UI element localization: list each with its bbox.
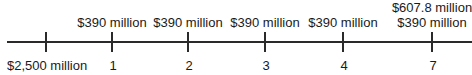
- tick-3: [264, 32, 266, 52]
- cashflow-label-3: $390 million: [230, 15, 299, 30]
- timeline-axis: [7, 41, 472, 43]
- cashflow-label-4: $390 million: [308, 15, 377, 30]
- cashflow-label-2: $390 million: [153, 15, 222, 30]
- tick-4: [342, 32, 344, 52]
- period-label-1: 1: [109, 58, 116, 73]
- period-label-7: 7: [429, 58, 436, 73]
- tick-7: [431, 32, 433, 52]
- initial-investment-label: $2,500 million: [7, 58, 87, 73]
- period-label-3: 3: [262, 58, 269, 73]
- tick-2: [187, 32, 189, 52]
- cashflow-label-7-principal: $607.8 million: [392, 0, 472, 15]
- tick-0: [45, 32, 47, 52]
- tick-1: [111, 32, 113, 52]
- period-label-2: 2: [185, 58, 192, 73]
- cashflow-label-7: $390 million: [397, 15, 466, 30]
- cashflow-label-1: $390 million: [77, 15, 146, 30]
- period-label-4: 4: [340, 58, 347, 73]
